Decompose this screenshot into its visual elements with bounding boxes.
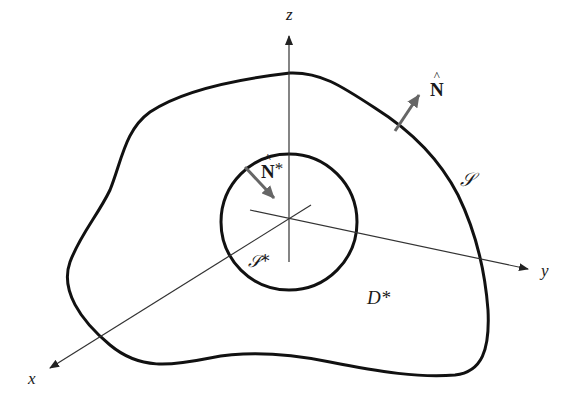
outer-surface-label: 𝒮 [460, 170, 475, 189]
z-axis-label: z [286, 6, 293, 23]
region-label: D* [367, 288, 390, 307]
outer-normal-arrow [395, 95, 419, 131]
inner-normal-symbol: N [261, 162, 275, 181]
outer-normal-label: N [430, 80, 444, 99]
outer-surface-curve [67, 73, 488, 376]
outer-normal-symbol: N [430, 80, 444, 99]
inner-normal-label: N* [261, 160, 283, 181]
inner-surface-label: 𝒮* [248, 253, 270, 270]
y-axis [250, 210, 528, 269]
inner-normal-superscript: * [275, 159, 284, 178]
diagram-canvas: z y x N 𝒮 N* 𝒮* D* [0, 0, 579, 410]
x-axis-label: x [28, 370, 36, 387]
diagram-graphics [0, 0, 579, 410]
y-axis-label: y [541, 262, 549, 279]
